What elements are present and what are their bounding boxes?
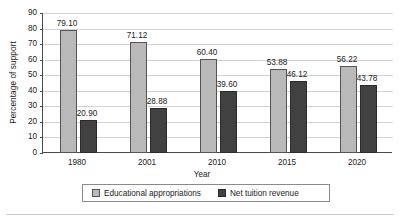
- gridline: [43, 29, 393, 30]
- bar: [270, 69, 287, 153]
- y-axis-tick: [40, 137, 44, 138]
- bar: [220, 91, 237, 153]
- bar: [60, 30, 77, 153]
- y-axis-tick-label: 20: [11, 117, 37, 126]
- chart-legend: Educational appropriations Net tuition r…: [82, 184, 330, 202]
- legend-label: Educational appropriations: [104, 189, 201, 198]
- y-axis-tick: [40, 13, 44, 14]
- y-axis-title: Percentage of support: [9, 19, 18, 147]
- y-axis-tick-label: 50: [11, 70, 37, 79]
- bar-chart-figure: Percentage of support 010203040506070809…: [0, 0, 404, 223]
- bar-value-label: 43.78: [350, 74, 384, 83]
- bar: [150, 108, 167, 153]
- bar-value-label: 28.88: [140, 97, 174, 106]
- bar: [360, 85, 377, 153]
- bar-value-label: 53.88: [260, 58, 294, 67]
- y-axis-tick: [40, 106, 44, 107]
- legend-swatch-icon: [92, 189, 100, 197]
- y-axis-tick: [40, 153, 44, 154]
- y-axis-tick: [40, 29, 44, 30]
- y-axis-tick-label: 30: [11, 101, 37, 110]
- y-axis-tick: [40, 60, 44, 61]
- bar: [80, 120, 97, 153]
- legend-entry-net-tuition-revenue: Net tuition revenue: [218, 189, 299, 198]
- x-axis-tick-label: 2001: [112, 158, 182, 167]
- bar-value-label: 39.60: [210, 80, 244, 89]
- x-axis-tick-label: 1980: [42, 158, 112, 167]
- x-axis-title: Year: [0, 170, 404, 179]
- y-axis-tick-label: 40: [11, 86, 37, 95]
- y-axis-tick: [40, 91, 44, 92]
- legend-label: Net tuition revenue: [230, 189, 299, 198]
- y-axis-tick: [40, 75, 44, 76]
- y-axis-tick-label: 0: [11, 148, 37, 157]
- gridline: [43, 44, 393, 45]
- y-axis-tick-label: 80: [11, 24, 37, 33]
- footer-divider: [6, 214, 394, 215]
- legend-entry-educational-appropriations: Educational appropriations: [92, 189, 201, 198]
- y-axis-tick: [40, 44, 44, 45]
- x-axis-tick-label: 2010: [182, 158, 252, 167]
- x-axis-tick-label: 2020: [322, 158, 392, 167]
- bar-value-label: 46.12: [280, 70, 314, 79]
- bar-value-label: 20.90: [70, 109, 104, 118]
- bar: [200, 59, 217, 153]
- y-axis-tick-label: 90: [11, 8, 37, 17]
- y-axis-tick-label: 60: [11, 55, 37, 64]
- bar-value-label: 71.12: [120, 31, 154, 40]
- bar-value-label: 79.10: [50, 19, 84, 28]
- x-axis-tick-label: 2015: [252, 158, 322, 167]
- y-axis-tick: [40, 122, 44, 123]
- bar-value-label: 60.40: [190, 48, 224, 57]
- bar: [290, 81, 307, 153]
- y-axis-tick-label: 70: [11, 39, 37, 48]
- y-axis-tick-label: 10: [11, 132, 37, 141]
- legend-swatch-icon: [218, 189, 226, 197]
- bar-value-label: 56.22: [330, 55, 364, 64]
- gridline: [43, 13, 393, 14]
